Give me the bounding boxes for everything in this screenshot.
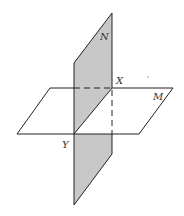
- stray-mark: [147, 76, 149, 78]
- label-point-y: Y: [62, 139, 70, 150]
- label-plane-m: M: [152, 91, 164, 102]
- plane-n-lower: [74, 134, 112, 205]
- label-point-x: X: [115, 75, 124, 86]
- planes-diagram: N X M Y: [0, 0, 184, 216]
- label-plane-n: N: [99, 31, 110, 42]
- plane-n-upper: [74, 13, 112, 88]
